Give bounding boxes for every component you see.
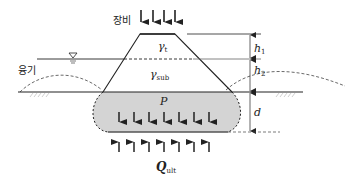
water-table-icon bbox=[69, 53, 77, 63]
label-equipment: 장비 bbox=[113, 15, 131, 26]
label-q-ult: Qult bbox=[156, 160, 176, 175]
ground-hatch-right bbox=[276, 93, 295, 97]
heave-arc-left bbox=[20, 75, 102, 92]
resistance-arrows-up bbox=[119, 142, 209, 152]
label-h2: h2 bbox=[254, 64, 266, 78]
label-gamma-t: γt bbox=[158, 40, 168, 54]
label-h1: h1 bbox=[254, 42, 266, 56]
label-pressure: P bbox=[159, 95, 168, 108]
heave-arc-right bbox=[226, 72, 345, 91]
ground-hatch-left bbox=[30, 93, 49, 97]
embankment-bearing-capacity-diagram: 장비 융기 γt γsub P h1 h2 d Qult bbox=[0, 0, 359, 180]
equipment-load-arrows bbox=[141, 10, 175, 22]
label-depth: d bbox=[254, 106, 261, 119]
label-heave: 융기 bbox=[18, 65, 36, 76]
label-gamma-sub: γsub bbox=[150, 68, 170, 82]
embankment bbox=[103, 34, 232, 92]
